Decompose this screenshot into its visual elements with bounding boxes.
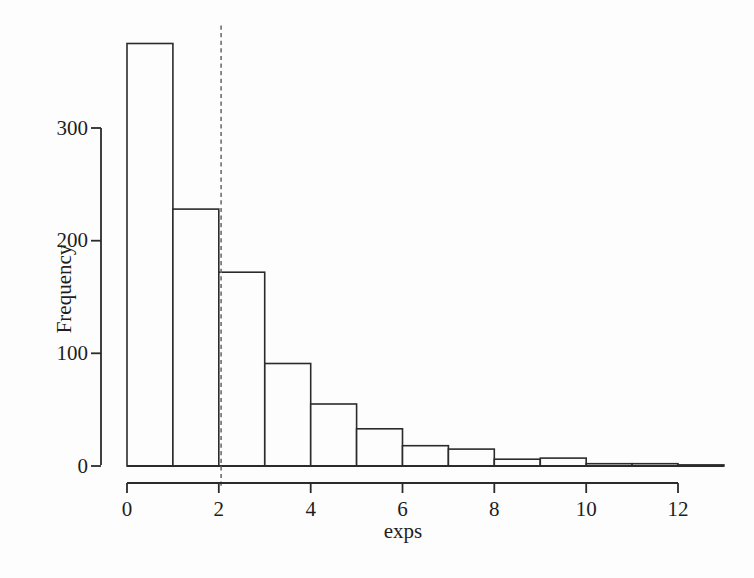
histogram-bar xyxy=(219,272,265,466)
histogram-bar xyxy=(127,44,173,467)
x-tick-label: 12 xyxy=(668,497,689,521)
y-axis-title: Frequency xyxy=(52,244,76,333)
x-tick-label: 10 xyxy=(576,497,597,521)
histogram-bar xyxy=(540,458,586,466)
histogram-bar xyxy=(448,449,494,466)
y-tick-label: 0 xyxy=(78,454,89,478)
y-tick-label: 300 xyxy=(57,116,89,140)
y-tick-label: 100 xyxy=(57,341,89,365)
histogram-figure: 0100200300024681012 Frequency exps xyxy=(0,0,754,578)
x-tick-label: 8 xyxy=(489,497,500,521)
histogram-bar xyxy=(265,364,311,467)
x-tick-label: 2 xyxy=(214,497,225,521)
x-tick-label: 4 xyxy=(305,497,316,521)
x-axis-title: exps xyxy=(384,519,423,543)
x-tick-label: 0 xyxy=(122,497,133,521)
histogram-bar xyxy=(357,429,403,466)
x-tick-label: 6 xyxy=(397,497,408,521)
histogram-canvas: 0100200300024681012 Frequency exps xyxy=(0,0,754,578)
histogram-bar xyxy=(173,209,219,466)
histogram-bar xyxy=(494,459,540,466)
histogram-bar xyxy=(403,446,449,466)
histogram-bar xyxy=(311,404,357,466)
